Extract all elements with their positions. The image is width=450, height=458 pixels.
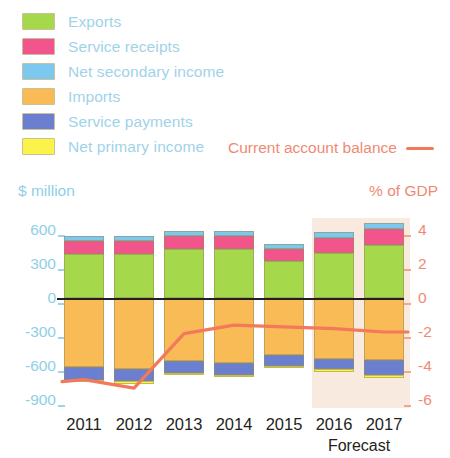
bar-2015 xyxy=(264,210,304,410)
zero-axis-line xyxy=(57,298,404,300)
bar-segment-2015-exports xyxy=(264,261,304,298)
right-axis-tick-4: 4 xyxy=(418,221,427,239)
bar-segment-2012-service-payments xyxy=(114,369,154,381)
left-axis-tick-0: 0 xyxy=(47,289,56,307)
bar-segment-2017-net-secondary-income xyxy=(364,223,404,229)
legend-item-imports: Imports xyxy=(22,85,252,108)
legend-label-exports: Exports xyxy=(68,13,121,31)
right-axis-title: % of GDP xyxy=(369,182,438,200)
bar-segment-2016-net-primary-income xyxy=(314,369,354,372)
left-axis-tick-neg300: -300 xyxy=(25,323,56,341)
right-axis-tick-neg6: -6 xyxy=(418,391,432,409)
x-axis-label-2016: 2016 xyxy=(316,415,353,434)
bar-2014 xyxy=(214,210,254,410)
legend-label-service_receipts: Service receipts xyxy=(68,38,180,56)
forecast-label: Forecast xyxy=(328,437,390,455)
x-axis-label-2017: 2017 xyxy=(366,415,403,434)
bar-segment-2013-service-receipts xyxy=(164,236,204,249)
legend-swatch-net_primary_income xyxy=(22,138,55,155)
right-axis-tick-2: 2 xyxy=(418,255,427,273)
bar-segment-2014-service-payments xyxy=(214,363,254,375)
legend-label-net_secondary_income: Net secondary income xyxy=(68,63,224,81)
right-axis-tick-0: 0 xyxy=(418,289,427,307)
bar-segment-2017-net-primary-income xyxy=(364,375,404,378)
bar-segment-2012-net-secondary-income xyxy=(114,236,154,241)
legend-label-service_payments: Service payments xyxy=(68,113,193,131)
legend-swatch-exports xyxy=(22,13,55,30)
legend-item-net_primary_income: Net primary income xyxy=(22,135,252,158)
bar-segment-2017-exports xyxy=(364,245,404,298)
legend-item-net_secondary_income: Net secondary income xyxy=(22,60,252,83)
bar-segment-2011-service-receipts xyxy=(64,241,104,253)
right-axis-tickmark xyxy=(404,405,411,407)
bar-segment-2011-imports xyxy=(64,298,104,367)
current-account-balance-chart: ExportsService receiptsNet secondary inc… xyxy=(0,0,450,458)
legend-label-net_primary_income: Net primary income xyxy=(68,138,204,156)
x-axis-label-2014: 2014 xyxy=(216,415,253,434)
bar-2011 xyxy=(64,210,104,410)
bar-segment-2015-net-primary-income xyxy=(264,366,304,368)
left-axis-title: $ million xyxy=(18,182,75,200)
bar-segment-2015-service-receipts xyxy=(264,249,304,261)
bar-segment-2011-net-secondary-income xyxy=(64,236,104,241)
bar-2016 xyxy=(314,210,354,410)
legend-line-swatch xyxy=(406,147,434,150)
legend-swatch-net_secondary_income xyxy=(22,63,55,80)
legend-swatch-service_payments xyxy=(22,113,55,130)
right-axis-tickmark xyxy=(404,235,411,237)
left-axis-tick-neg900: -900 xyxy=(25,391,56,409)
bar-segment-2016-imports xyxy=(314,298,354,359)
legend-swatch-service_receipts xyxy=(22,38,55,55)
legend-label-imports: Imports xyxy=(68,88,120,106)
bar-segment-2016-exports xyxy=(314,253,354,298)
bar-segment-2013-imports xyxy=(164,298,204,361)
bar-segment-2017-service-receipts xyxy=(364,229,404,245)
bar-segment-2013-service-payments xyxy=(164,361,204,373)
bar-segment-2012-exports xyxy=(114,254,154,298)
bar-segment-2012-net-primary-income xyxy=(114,381,154,383)
left-axis-tick-600: 600 xyxy=(30,221,56,239)
legend-item-service_receipts: Service receipts xyxy=(22,35,252,58)
legend-label-current-account-balance: Current account balance xyxy=(228,139,397,157)
bar-segment-2017-service-payments xyxy=(364,360,404,375)
bar-segment-2015-net-secondary-income xyxy=(264,244,304,249)
x-axis-label-2011: 2011 xyxy=(66,415,101,434)
bar-segment-2016-service-receipts xyxy=(314,238,354,253)
legend-swatch-imports xyxy=(22,88,55,105)
bar-2012 xyxy=(114,210,154,410)
bar-segment-2012-service-receipts xyxy=(114,241,154,253)
legend-item-service_payments: Service payments xyxy=(22,110,252,133)
bar-segment-2014-service-receipts xyxy=(214,236,254,249)
chart-legend: ExportsService receiptsNet secondary inc… xyxy=(22,10,252,160)
bar-segment-2014-imports xyxy=(214,298,254,363)
bar-segment-2013-net-secondary-income xyxy=(164,231,204,237)
bar-segment-2017-imports xyxy=(364,298,404,360)
bar-segment-2015-service-payments xyxy=(264,355,304,366)
bar-segment-2014-net-secondary-income xyxy=(214,231,254,236)
right-axis-tick-neg4: -4 xyxy=(418,357,432,375)
x-axis-label-2013: 2013 xyxy=(166,415,203,434)
right-axis-tickmark xyxy=(404,371,411,373)
x-axis-labels: 2011201220132014201520162017 xyxy=(0,415,450,437)
bar-segment-2016-net-secondary-income xyxy=(314,232,354,238)
x-axis-label-2015: 2015 xyxy=(266,415,303,434)
plot-area: 6003000-300-600-900420-2-4-6 xyxy=(0,210,450,410)
bar-segment-2013-exports xyxy=(164,249,204,298)
right-axis-tickmark xyxy=(404,303,411,305)
bar-segment-2011-net-primary-income xyxy=(64,380,104,382)
x-axis-label-2012: 2012 xyxy=(116,415,153,434)
bar-2017 xyxy=(364,210,404,410)
left-axis-tick-300: 300 xyxy=(30,255,56,273)
bar-segment-2014-exports xyxy=(214,249,254,298)
bar-segment-2011-exports xyxy=(64,254,104,298)
legend-item-current-account-balance: Current account balance xyxy=(228,139,434,157)
right-axis-tickmark xyxy=(404,337,411,339)
bar-2013 xyxy=(164,210,204,410)
left-axis-tick-neg600: -600 xyxy=(25,357,56,375)
bar-segment-2011-service-payments xyxy=(64,367,104,379)
bar-segment-2013-net-primary-income xyxy=(164,373,204,375)
bar-segment-2016-service-payments xyxy=(314,359,354,369)
bar-segment-2012-imports xyxy=(114,298,154,369)
legend-item-exports: Exports xyxy=(22,10,252,33)
right-axis-tick-neg2: -2 xyxy=(418,323,432,341)
